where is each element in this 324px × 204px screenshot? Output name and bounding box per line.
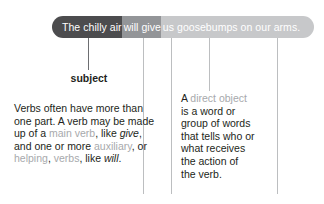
example-word-give: give — [120, 127, 139, 139]
verb-line4-prefix: and one or more — [14, 140, 94, 152]
connector-line-subject — [88, 38, 89, 70]
sentence-segment-verb[interactable]: will give — [122, 16, 161, 38]
verb-explanation-line-1: Verbs often have more than — [14, 102, 174, 115]
verb-line5-suffix: . — [119, 152, 122, 164]
direct-object-explanation-text: A direct object is a word or group of wo… — [181, 92, 273, 180]
object-line1-prefix: A — [181, 92, 190, 104]
verb-line5-mid: , like — [79, 152, 104, 164]
label-subject: subject — [52, 72, 126, 84]
object-explanation-line-5: what receives — [181, 142, 273, 155]
connector-line-object-left — [209, 38, 210, 91]
sentence-segment-verb-text: will give — [122, 16, 161, 38]
verb-line3-suffix: , — [139, 127, 142, 139]
verb-explanation-line-5: helping, verbs, like will. — [14, 152, 174, 165]
sentence-diagram-bar: The chilly air will give us goosebumps o… — [52, 16, 314, 38]
sentence-segment-direct-object[interactable]: us goosebumps on our arms. — [161, 16, 314, 38]
term-main-verb: main verb — [49, 127, 95, 139]
term-auxiliary: auxiliary — [94, 140, 132, 152]
example-word-will: will — [104, 152, 119, 164]
verb-line4-suffix: , or — [132, 140, 147, 152]
object-explanation-line-2: is a word or — [181, 105, 273, 118]
term-helping: helping — [14, 152, 48, 164]
verb-explanation-text: Verbs often have more than one part. A v… — [14, 102, 174, 165]
verb-line3-mid: , like — [95, 127, 120, 139]
connector-line-object-right — [277, 38, 278, 194]
object-explanation-line-3: group of words — [181, 117, 273, 130]
sentence-segment-subject[interactable]: The chilly air — [52, 16, 122, 38]
verb-explanation-line-3: up of a main verb, like give, — [14, 127, 174, 140]
object-explanation-line-1: A direct object — [181, 92, 273, 105]
term-direct-object: direct object — [190, 92, 247, 104]
object-explanation-line-7: the verb. — [181, 168, 273, 181]
sentence-segment-direct-object-text: us goosebumps on our arms. — [161, 16, 300, 38]
sentence-segment-subject-text: The chilly air — [62, 16, 122, 38]
term-verbs: verbs — [54, 152, 80, 164]
object-explanation-line-4: that tells who or — [181, 130, 273, 143]
verb-explanation-line-2: one part. A verb may be made — [14, 115, 174, 128]
object-explanation-line-6: the action of — [181, 155, 273, 168]
verb-line3-prefix: up of a — [14, 127, 49, 139]
verb-explanation-line-4: and one or more auxiliary, or — [14, 140, 174, 153]
